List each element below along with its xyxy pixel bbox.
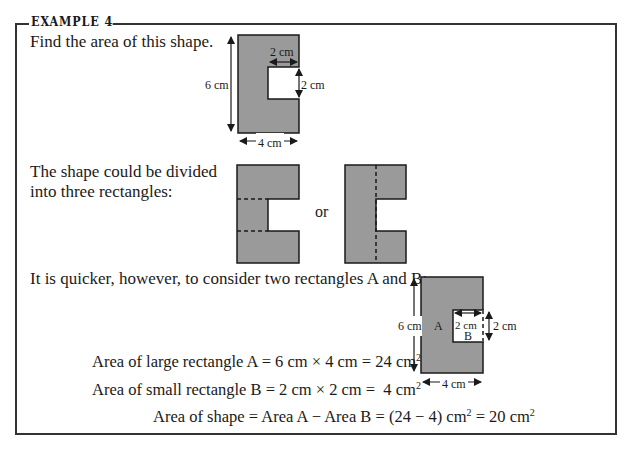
figure2-height-label: 6 cm — [398, 316, 422, 336]
rect-b-label: B — [464, 326, 472, 346]
rect-a-label: A — [434, 316, 443, 336]
or-connector: or — [315, 202, 328, 222]
figure1-height-label: 6 cm — [205, 75, 229, 95]
figure2-notch-height-label: 2 cm — [493, 316, 517, 336]
calc-line-large-rect: Area of large rectangle A = 6 cm × 4 cm … — [92, 352, 421, 372]
figure1-width-label: 4 cm — [256, 133, 284, 153]
figure1-notch-height-label: 2 cm — [301, 75, 325, 95]
figure2-width-label: 4 cm — [440, 374, 468, 394]
calc-line-small-rect: Area of small rectangle B = 2 cm × 2 cm … — [92, 380, 421, 400]
figure-split-horizontal — [237, 165, 299, 263]
calc-line-total-area: Area of shape = Area A − Area B = (24 − … — [153, 407, 535, 427]
figure1-notch-width-label: 2 cm — [270, 42, 294, 62]
figure-split-vertical — [345, 165, 406, 263]
